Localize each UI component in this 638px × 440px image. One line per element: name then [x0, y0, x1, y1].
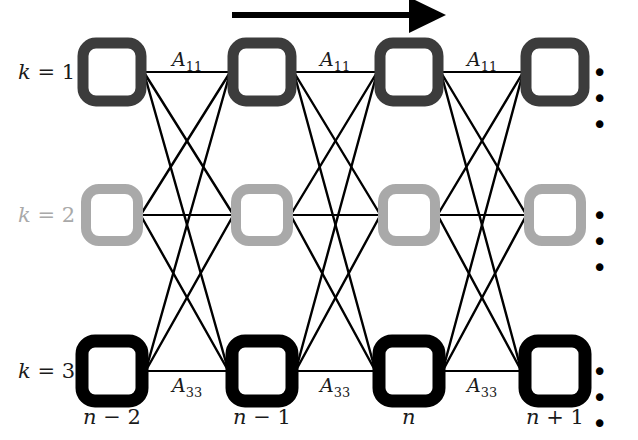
edge-label-matrix: A	[172, 374, 186, 396]
col-label-offset: 2	[127, 405, 140, 429]
edge-cross	[441, 72, 527, 215]
edge-cross	[438, 72, 524, 215]
row-label-var: k	[18, 60, 31, 84]
node-k2-c3[interactable]	[529, 189, 581, 241]
edge-cross	[441, 72, 522, 371]
node-square	[383, 189, 435, 241]
row-label-k2: k = 2	[18, 203, 75, 227]
edge-cross	[296, 72, 378, 371]
node-square	[236, 189, 288, 241]
col-label-var: n	[402, 405, 416, 429]
lattice-graph-svg	[0, 0, 638, 440]
edge-cross	[294, 72, 381, 215]
edge-cross	[144, 72, 234, 215]
ellipsis-k1: • • •	[592, 60, 638, 138]
edge-label-subscript: 33	[334, 385, 350, 400]
node-k1-c0[interactable]	[83, 43, 141, 101]
edge-cross	[291, 72, 378, 215]
col-label-op: −	[247, 405, 278, 429]
edge-label-a33-0: A33	[172, 374, 202, 400]
row-label-var: k	[18, 359, 31, 383]
col-label-c0: n − 2	[83, 405, 141, 429]
node-k3-c2[interactable]	[379, 341, 439, 401]
node-k2-c2[interactable]	[383, 189, 435, 241]
edge-label-subscript: 33	[186, 385, 202, 400]
col-label-c3: n + 1	[526, 405, 584, 429]
edge-label-a33-2: A33	[467, 374, 497, 400]
edges-layer	[141, 72, 527, 371]
edge-cross	[294, 72, 376, 371]
col-label-offset: 1	[277, 405, 290, 429]
col-label-op: −	[97, 405, 128, 429]
row-label-index: 2	[62, 203, 75, 227]
edge-label-matrix: A	[320, 48, 334, 70]
edge-label-matrix: A	[172, 48, 186, 70]
node-square	[379, 341, 439, 401]
diagram-canvas: k = 1k = 2k = 3n − 2n − 1nn + 1A11A11A11…	[0, 0, 638, 440]
node-square	[86, 189, 138, 241]
node-square	[233, 43, 291, 101]
ellipsis-k2: • • •	[592, 203, 638, 281]
ellipsis-k3: • • •	[592, 359, 638, 437]
node-square	[83, 43, 141, 101]
edge-label-a11-0: A11	[172, 48, 202, 74]
edge-label-a11-1: A11	[320, 48, 350, 74]
col-label-var: n	[526, 405, 540, 429]
node-k1-c1[interactable]	[233, 43, 291, 101]
edge-cross	[146, 72, 231, 371]
col-label-c2: n	[402, 405, 416, 429]
edge-label-subscript: 11	[186, 59, 202, 74]
edge-cross	[141, 72, 231, 215]
edge-label-a11-2: A11	[467, 48, 497, 74]
col-label-var: n	[233, 405, 247, 429]
col-label-offset: 1	[570, 405, 583, 429]
row-label-index: 3	[62, 359, 75, 383]
edge-cross	[443, 72, 524, 371]
edge-label-subscript: 11	[481, 59, 497, 74]
edge-label-matrix: A	[467, 48, 481, 70]
node-k2-c0[interactable]	[86, 189, 138, 241]
node-square	[526, 43, 584, 101]
edge-label-matrix: A	[467, 374, 481, 396]
col-label-var: n	[83, 405, 97, 429]
node-k3-c0[interactable]	[82, 341, 142, 401]
node-k1-c3[interactable]	[526, 43, 584, 101]
row-label-equals: =	[31, 203, 62, 227]
node-square	[525, 341, 585, 401]
node-k1-c2[interactable]	[380, 43, 438, 101]
col-label-c1: n − 1	[233, 405, 291, 429]
edge-label-matrix: A	[320, 374, 334, 396]
edge-cross	[146, 215, 234, 371]
row-label-index: 1	[62, 60, 75, 84]
row-label-k1: k = 1	[18, 60, 75, 84]
edge-label-subscript: 33	[481, 385, 497, 400]
row-label-equals: =	[31, 359, 62, 383]
node-k2-c1[interactable]	[236, 189, 288, 241]
edge-label-subscript: 11	[334, 59, 350, 74]
node-square	[380, 43, 438, 101]
row-label-equals: =	[31, 60, 62, 84]
row-label-var: k	[18, 203, 31, 227]
edge-cross	[144, 72, 229, 371]
node-square	[529, 189, 581, 241]
edge-label-a33-1: A33	[320, 374, 350, 400]
node-k3-c3[interactable]	[525, 341, 585, 401]
edge-cross	[141, 215, 229, 371]
node-k3-c1[interactable]	[232, 341, 292, 401]
node-square	[82, 341, 142, 401]
row-label-k3: k = 3	[18, 359, 75, 383]
node-square	[232, 341, 292, 401]
col-label-op: +	[540, 405, 571, 429]
